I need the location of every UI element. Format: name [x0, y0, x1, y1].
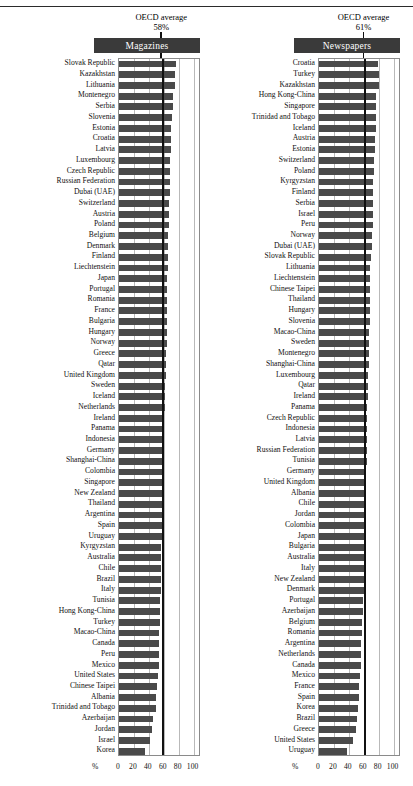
bar-row: [319, 242, 399, 253]
bar: [319, 340, 369, 347]
bar: [119, 737, 150, 744]
bar-row: [119, 220, 199, 231]
category-label: Finland: [0, 252, 115, 260]
axis-tick-100: 100: [181, 762, 205, 771]
bar: [119, 307, 167, 314]
bar: [119, 71, 175, 78]
bar-row: [119, 188, 199, 199]
bar-row: [319, 639, 399, 650]
bar: [119, 361, 166, 368]
bar-row: [119, 617, 199, 628]
category-label: France: [0, 306, 115, 314]
bar-row: [119, 499, 199, 510]
bar: [319, 651, 361, 658]
bar: [319, 318, 370, 325]
bar-row: [319, 714, 399, 725]
category-label: Colombia: [210, 521, 315, 529]
category-label: Finland: [210, 188, 315, 196]
category-label: Hong Kong-China: [0, 607, 115, 615]
average-line: [364, 59, 366, 755]
category-label: Qatar: [0, 360, 115, 368]
bar-row: [319, 596, 399, 607]
bar-row: [319, 682, 399, 693]
bar: [119, 447, 164, 454]
category-label: Portugal: [0, 285, 115, 293]
bar: [119, 608, 160, 615]
plot-area-magazines: [118, 58, 200, 756]
bar: [319, 114, 376, 121]
oecd-average-newspapers: OECD average 61%: [318, 13, 408, 32]
bar-row: [119, 209, 199, 220]
category-label: Azerbaijan: [0, 714, 115, 722]
bars-newspapers: [319, 59, 399, 755]
bar: [119, 329, 167, 336]
bar: [319, 522, 365, 529]
bar-row: [319, 59, 399, 70]
category-label: Macao-China: [210, 328, 315, 336]
bar-row: [119, 317, 199, 328]
bar-row: [319, 510, 399, 521]
bar: [319, 694, 359, 701]
category-label: Germany: [210, 467, 315, 475]
category-label: Croatia: [0, 134, 115, 142]
category-label: Thailand: [210, 295, 315, 303]
bar: [119, 404, 165, 411]
category-label: Dubai (UAE): [0, 188, 115, 196]
bar: [119, 61, 176, 68]
category-label: Slovak Republic: [0, 59, 115, 67]
bar-row: [319, 446, 399, 457]
bar: [119, 726, 152, 733]
category-label: Sweden: [0, 381, 115, 389]
bar-row: [119, 123, 199, 134]
category-label: Mexico: [210, 671, 315, 679]
bar: [119, 265, 168, 272]
category-label: Montenegro: [210, 349, 315, 357]
category-label: Israel: [0, 736, 115, 744]
bar: [319, 275, 370, 282]
category-label: Russian Federation: [0, 177, 115, 185]
bar-row: [319, 166, 399, 177]
bar-row: [319, 370, 399, 381]
category-label: Hong Kong-China: [210, 91, 315, 99]
category-label: Argentina: [210, 639, 315, 647]
bar-row: [119, 714, 199, 725]
bar: [319, 662, 361, 669]
category-label: Jordan: [210, 510, 315, 518]
bar-row: [119, 145, 199, 156]
bar: [119, 716, 153, 723]
chart-page: OECD average 58% Magazines Slovak Republ…: [0, 0, 413, 786]
bar: [319, 383, 368, 390]
bar: [119, 683, 157, 690]
category-label: Korea: [0, 746, 115, 754]
category-labels-magazines: Slovak RepublicKazakhstanLithuaniaMonten…: [0, 0, 115, 786]
bar-row: [119, 349, 199, 360]
bar-row: [119, 736, 199, 747]
bar: [119, 533, 162, 540]
category-label: Singapore: [0, 478, 115, 486]
category-label: Belgium: [210, 618, 315, 626]
bar: [319, 436, 367, 443]
bar: [319, 716, 357, 723]
category-label: Poland: [210, 167, 315, 175]
bar-row: [119, 456, 199, 467]
category-label: Luxembourg: [210, 371, 315, 379]
category-label: Italy: [0, 585, 115, 593]
bar-row: [119, 113, 199, 124]
category-label: Hungary: [0, 328, 115, 336]
bar: [119, 651, 159, 658]
category-label: Russian Federation: [210, 446, 315, 454]
bar-row: [319, 327, 399, 338]
bar-row: [119, 338, 199, 349]
bar-row: [319, 746, 399, 756]
category-label: Austria: [210, 134, 315, 142]
bar-row: [119, 596, 199, 607]
category-label: Bulgaria: [0, 317, 115, 325]
bar: [119, 469, 164, 476]
bar-row: [119, 510, 199, 521]
bar-row: [119, 177, 199, 188]
bar: [319, 82, 379, 89]
bar: [319, 393, 368, 400]
category-label: Kazakhstan: [210, 81, 315, 89]
category-label: Chinese Taipei: [210, 285, 315, 293]
bar-row: [119, 489, 199, 500]
